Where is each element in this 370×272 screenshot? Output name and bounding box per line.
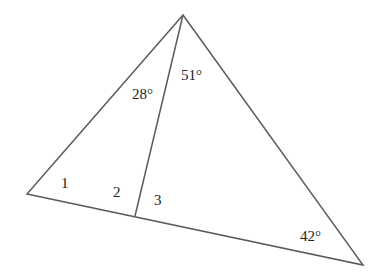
label-angle-51: 51° <box>181 67 202 83</box>
triangle-diagram: 28° 51° 1 2 3 42° <box>0 0 370 272</box>
label-angle-1: 1 <box>61 175 69 191</box>
label-angle-3: 3 <box>154 192 162 208</box>
label-angle-2: 2 <box>113 184 121 200</box>
label-angle-28: 28° <box>132 86 153 102</box>
cevian-segment <box>135 15 183 216</box>
label-angle-42: 42° <box>300 228 321 244</box>
